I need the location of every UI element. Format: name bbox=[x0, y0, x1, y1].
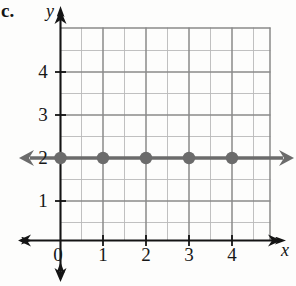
x-tick-label-1: 1 bbox=[93, 244, 113, 266]
y-tick-label-4: 4 bbox=[33, 61, 53, 83]
data-point bbox=[183, 152, 195, 164]
x-tick-label-2: 2 bbox=[136, 244, 156, 266]
data-point bbox=[140, 152, 152, 164]
x-axis-label: x bbox=[281, 240, 289, 261]
grid-major bbox=[61, 28, 271, 241]
x-tick-label-3: 3 bbox=[179, 244, 199, 266]
x-tick-label-4: 4 bbox=[222, 244, 242, 266]
axis-lines bbox=[22, 16, 276, 272]
data-point bbox=[54, 152, 66, 164]
graph-figure: c. bbox=[0, 0, 296, 286]
data-point bbox=[226, 152, 238, 164]
y-tick-label-3: 3 bbox=[33, 104, 53, 126]
y-tick-label-2: 2 bbox=[33, 147, 53, 169]
data-point bbox=[97, 152, 109, 164]
y-tick-label-1: 1 bbox=[33, 190, 53, 212]
y-axis-label: y bbox=[46, 1, 54, 22]
x-tick-label-0: 0 bbox=[48, 244, 68, 266]
grid-minor bbox=[61, 28, 271, 241]
